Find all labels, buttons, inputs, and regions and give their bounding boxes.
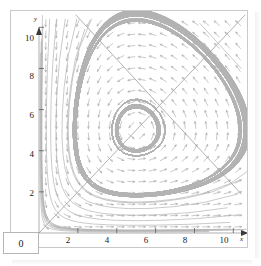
- x-tick-label-10: 10: [220, 236, 229, 245]
- direction-field-plot: [11, 11, 248, 248]
- origin-label: 0: [19, 238, 24, 249]
- x-tick-label-2: 2: [66, 236, 71, 245]
- y-axis-label: y: [34, 16, 37, 23]
- page-shadow-bottom: [12, 260, 252, 266]
- x-tick-label-8: 8: [183, 236, 188, 245]
- figure-phase-portrait: 2 4 6 8 10 2 4 6 8 10 y x 0: [0, 0, 261, 266]
- y-tick-label-8: 8: [20, 72, 34, 81]
- origin-label-box: 0: [3, 232, 39, 254]
- y-tick-label-6: 6: [20, 111, 34, 120]
- y-tick-label-2: 2: [20, 189, 34, 198]
- x-tick-label-6: 6: [144, 236, 149, 245]
- y-tick-label-10: 10: [16, 34, 34, 43]
- plot-frame: [10, 10, 248, 248]
- x-tick-label-4: 4: [105, 236, 110, 245]
- page-shadow-right: [255, 12, 261, 258]
- x-axis-label: x: [240, 236, 243, 243]
- y-tick-label-4: 4: [20, 150, 34, 159]
